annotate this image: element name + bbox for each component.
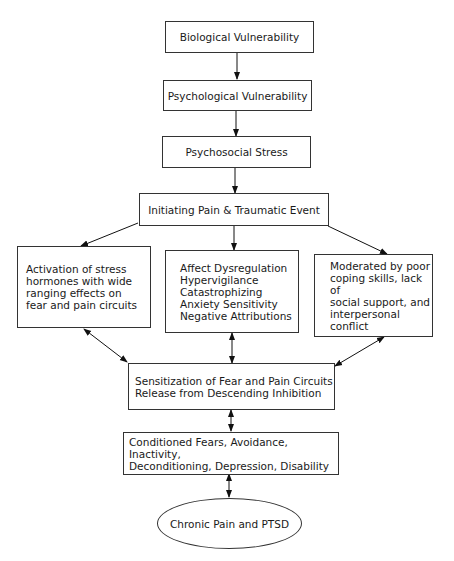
node-conditioned-fears: Conditioned Fears, Avoidance, Inactivity… xyxy=(123,432,339,475)
node-label: Conditioned Fears, Avoidance, Inactivity… xyxy=(129,436,338,472)
node-chronic-pain-ptsd: Chronic Pain and PTSD xyxy=(157,498,302,549)
node-label: Affect Dysregulation Hypervigilance Cata… xyxy=(180,262,292,322)
node-moderated-factors: Moderated by poor coping skills, lack of… xyxy=(314,254,433,337)
node-label: Initiating Pain & Traumatic Event xyxy=(148,204,320,216)
arrow-initiating-to-moderated xyxy=(328,226,387,254)
node-label: Psychosocial Stress xyxy=(185,146,287,158)
node-label: Chronic Pain and PTSD xyxy=(170,518,289,530)
node-label: Moderated by poor coping skills, lack of… xyxy=(330,260,432,332)
node-stress-hormones: Activation of stress hormones with wide … xyxy=(17,246,151,328)
arrow-initiating-to-stress-hormones xyxy=(81,223,138,246)
node-label: Psychological Vulnerability xyxy=(168,90,308,102)
arrow-stress-hormones-sensitization xyxy=(84,329,127,362)
node-label: Biological Vulnerability xyxy=(180,31,300,43)
node-initiating-pain-traumatic-event: Initiating Pain & Traumatic Event xyxy=(139,193,329,226)
node-affect-dysregulation: Affect Dysregulation Hypervigilance Cata… xyxy=(165,250,299,333)
node-label: Activation of stress hormones with wide … xyxy=(26,263,137,311)
node-psychological-vulnerability: Psychological Vulnerability xyxy=(163,80,312,111)
node-label: Sensitization of Fear and Pain Circuits … xyxy=(135,375,333,399)
node-psychosocial-stress: Psychosocial Stress xyxy=(162,136,311,168)
node-sensitization: Sensitization of Fear and Pain Circuits … xyxy=(128,363,335,410)
node-biological-vulnerability: Biological Vulnerability xyxy=(165,21,314,53)
arrow-moderated-sensitization xyxy=(335,337,384,366)
